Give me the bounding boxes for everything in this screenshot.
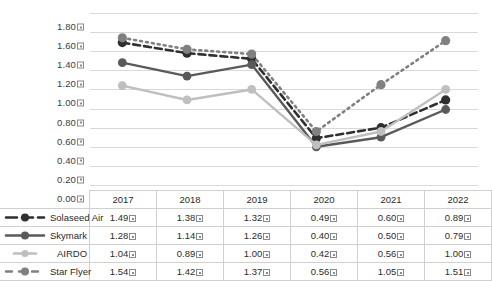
- table-row: Star Flyer1.541.421.370.561.051.51: [0, 263, 492, 281]
- y-axis: 0.000.200.400.600.801.001.201.401.601.80: [0, 13, 88, 185]
- missing-glyph-box: [129, 251, 136, 258]
- y-axis-tick-label: 1.60: [57, 40, 84, 51]
- data-point: [182, 45, 191, 54]
- series-line-solaseed-air: [122, 43, 445, 139]
- missing-glyph-box: [77, 176, 84, 183]
- missing-glyph-box: [397, 215, 404, 222]
- y-axis-tick-label: 0.40: [57, 154, 84, 165]
- missing-glyph-box: [263, 269, 270, 276]
- chart-series-layer: [90, 13, 478, 185]
- legend-item-skymark[interactable]: Skymark: [0, 227, 90, 245]
- table-cell-value: 0.56: [291, 263, 358, 281]
- table-year-header: 2020: [291, 191, 358, 209]
- legend-item-star-flyer[interactable]: Star Flyer: [0, 263, 90, 281]
- table-cell-value: 1.42: [157, 263, 224, 281]
- table-cell-value: 1.04: [90, 245, 157, 263]
- table-cell-value: 1.51: [425, 263, 492, 281]
- data-point: [183, 72, 192, 81]
- data-point: [441, 85, 450, 94]
- data-point: [118, 33, 127, 42]
- table-header-row: 201720182019202020212022: [0, 191, 492, 209]
- data-table: 201720182019202020212022 Solaseed Air1.4…: [0, 190, 492, 281]
- missing-glyph-box: [330, 233, 337, 240]
- table-cell-value: 1.05: [358, 263, 425, 281]
- legend-label: AIRDO: [50, 248, 87, 259]
- missing-glyph-box: [397, 251, 404, 258]
- table-cell-value: 0.40: [291, 227, 358, 245]
- missing-glyph-box: [464, 251, 471, 258]
- table-row: Skymark1.281.141.260.400.500.79: [0, 227, 492, 245]
- missing-glyph-box: [77, 138, 84, 145]
- series-line-skymark: [122, 63, 445, 147]
- legend-marker-dashed: [4, 212, 46, 223]
- y-axis-tick-label: 0.60: [57, 135, 84, 146]
- missing-glyph-box: [330, 215, 337, 222]
- missing-glyph-box: [77, 157, 84, 164]
- table-cell-value: 1.32: [224, 209, 291, 227]
- chart-plot-area: [90, 13, 478, 185]
- missing-glyph-box: [77, 100, 84, 107]
- data-point: [312, 127, 321, 136]
- data-point: [247, 49, 256, 58]
- table-year-header: 2018: [157, 191, 224, 209]
- table-cell-value: 1.38: [157, 209, 224, 227]
- table-cell-value: 0.50: [358, 227, 425, 245]
- missing-glyph-box: [196, 233, 203, 240]
- legend-label: Star Flyer: [50, 266, 91, 277]
- missing-glyph-box: [330, 269, 337, 276]
- data-point: [441, 105, 450, 114]
- missing-glyph-box: [129, 269, 136, 276]
- table-cell-value: 0.79: [425, 227, 492, 245]
- data-point: [118, 58, 127, 67]
- missing-glyph-box: [77, 62, 84, 69]
- table-cell-value: 0.56: [358, 245, 425, 263]
- missing-glyph-box: [129, 215, 136, 222]
- table-cell-value: 1.14: [157, 227, 224, 245]
- data-point: [441, 95, 450, 104]
- table-cell-value: 0.42: [291, 245, 358, 263]
- data-point: [376, 80, 385, 89]
- y-axis-tick-label: 1.20: [57, 78, 84, 89]
- missing-glyph-box: [397, 233, 404, 240]
- y-axis-tick-label: 1.00: [57, 97, 84, 108]
- missing-glyph-box: [196, 269, 203, 276]
- legend-label: Skymark: [50, 230, 87, 241]
- missing-glyph-box: [464, 233, 471, 240]
- missing-glyph-box: [77, 43, 84, 50]
- legend-marker-solid: [4, 230, 46, 241]
- data-point: [377, 127, 386, 136]
- legend-item-airdo[interactable]: AIRDO: [0, 245, 90, 263]
- table-row: AIRDO1.040.891.000.420.561.00: [0, 245, 492, 263]
- legend-marker-long-dashed: [4, 266, 46, 277]
- table-body: Solaseed Air1.491.381.320.490.600.89Skym…: [0, 209, 492, 281]
- legend-item-solaseed-air[interactable]: Solaseed Air: [0, 209, 90, 227]
- missing-glyph-box: [77, 24, 84, 31]
- table-cell-value: 0.89: [425, 209, 492, 227]
- missing-glyph-box: [77, 81, 84, 88]
- table-row: Solaseed Air1.491.381.320.490.600.89: [0, 209, 492, 227]
- table-cell-value: 1.37: [224, 263, 291, 281]
- y-axis-tick-label: 0.80: [57, 116, 84, 127]
- table-cell-value: 1.00: [425, 245, 492, 263]
- missing-glyph-box: [263, 233, 270, 240]
- table-cell-value: 0.60: [358, 209, 425, 227]
- missing-glyph-box: [263, 215, 270, 222]
- table-cell-value: 1.26: [224, 227, 291, 245]
- missing-glyph-box: [263, 251, 270, 258]
- missing-glyph-box: [464, 215, 471, 222]
- missing-glyph-box: [196, 251, 203, 258]
- data-point: [312, 140, 321, 149]
- table-year-header: 2019: [224, 191, 291, 209]
- missing-glyph-box: [129, 233, 136, 240]
- missing-glyph-box: [397, 269, 404, 276]
- table-cell-value: 0.49: [291, 209, 358, 227]
- data-point: [183, 96, 192, 105]
- missing-glyph-box: [464, 269, 471, 276]
- missing-glyph-box: [196, 215, 203, 222]
- table-cell-value: 0.89: [157, 245, 224, 263]
- y-axis-tick-label: 0.20: [57, 173, 84, 184]
- y-axis-tick-label: 1.80: [57, 21, 84, 32]
- data-point: [118, 81, 127, 90]
- y-axis-tick-label: 1.40: [57, 59, 84, 70]
- missing-glyph-box: [330, 251, 337, 258]
